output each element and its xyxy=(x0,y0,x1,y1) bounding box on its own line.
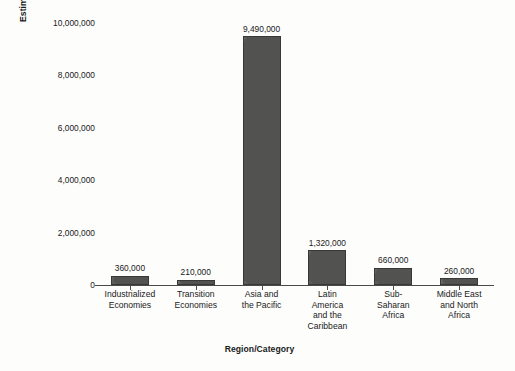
bar[interactable] xyxy=(111,276,149,285)
x-tick-label: Transition Economies xyxy=(159,289,233,310)
bar-slot: 9,490,000 xyxy=(229,23,295,285)
bar-column: 210,000 xyxy=(163,23,229,285)
bar[interactable] xyxy=(308,250,346,285)
y-tick-label: 6,000,000 xyxy=(33,123,95,133)
bar-slot: 360,000 xyxy=(97,23,163,285)
x-tick-label: Sub- Saharan Africa xyxy=(356,289,430,321)
bar[interactable] xyxy=(374,268,412,285)
bar-slot: 210,000 xyxy=(163,23,229,285)
bar-value-label: 260,000 xyxy=(444,266,474,276)
x-tick-label: Latin America and the Caribbean xyxy=(290,289,364,331)
bar-value-label: 660,000 xyxy=(378,255,408,265)
x-axis-tick-labels: Industrialized EconomiesTransition Econo… xyxy=(97,289,492,339)
bar-slot: 1,320,000 xyxy=(295,23,361,285)
y-tick-label: 4,000,000 xyxy=(33,175,95,185)
bar-column: 660,000 xyxy=(360,23,426,285)
y-tick-label: 8,000,000 xyxy=(33,70,95,80)
bar[interactable] xyxy=(243,36,281,285)
bar-slot: 660,000 xyxy=(360,23,426,285)
bar-column: 9,490,000 xyxy=(229,23,295,285)
x-axis-title: Region/Category xyxy=(0,344,515,354)
x-tick-label: Middle East and North Africa xyxy=(422,289,496,321)
bar-value-label: 1,320,000 xyxy=(309,238,346,248)
bar-column: 1,320,000 xyxy=(295,23,361,285)
bar-chart-figure: Estimated Number of Presons (Rounded Up)… xyxy=(0,0,515,371)
bar-value-label: 9,490,000 xyxy=(243,24,280,34)
y-tick-label: 10,000,000 xyxy=(33,18,95,28)
y-axis-title: Estimated Number of Presons (Rounded Up) xyxy=(16,0,30,56)
x-tick-label: Asia and the Pacific xyxy=(225,289,299,310)
y-axis-tick-labels: 02,000,0004,000,0006,000,0008,000,00010,… xyxy=(33,0,95,288)
x-axis-line xyxy=(95,285,494,286)
bar-column: 360,000 xyxy=(97,23,163,285)
bar-slot: 260,000 xyxy=(426,23,492,285)
y-tick-label: 2,000,000 xyxy=(33,228,95,238)
y-tick-label: 0 xyxy=(33,280,95,290)
x-tick-label: Industrialized Economies xyxy=(93,289,167,310)
plot-area: 360,000210,0009,490,0001,320,000660,0002… xyxy=(97,23,492,285)
bar-value-label: 360,000 xyxy=(115,263,145,273)
bar-column: 260,000 xyxy=(426,23,492,285)
bar[interactable] xyxy=(440,278,478,285)
bar-value-label: 210,000 xyxy=(181,267,211,277)
x-axis-title-text: Region/Category xyxy=(225,344,295,354)
